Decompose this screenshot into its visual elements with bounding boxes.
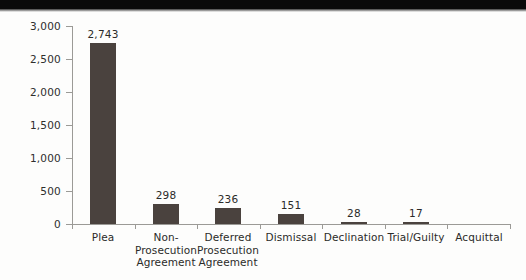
x-axis-tick	[135, 224, 136, 229]
x-axis-category-label: Plea	[92, 231, 115, 244]
bar	[153, 204, 179, 224]
bar-value-label: 28	[347, 207, 361, 219]
bar-value-label: 298	[156, 189, 177, 201]
y-axis-tick-label: 1,500	[30, 119, 61, 131]
bar	[90, 43, 116, 224]
bar-value-label: 17	[409, 207, 423, 219]
x-axis-category-label: Trial/Guilty	[387, 231, 444, 244]
x-axis-category-label: Non- Prosecution Agreement	[135, 231, 197, 269]
x-axis-tick	[447, 224, 448, 229]
bar-value-label: 151	[281, 199, 302, 211]
x-axis-tick	[322, 224, 323, 229]
bars-layer	[0, 12, 526, 224]
bar-value-label: 2,743	[87, 28, 118, 40]
bar	[341, 222, 367, 224]
x-axis-tick	[510, 224, 511, 229]
x-axis-tick	[385, 224, 386, 229]
bar-value-label: 236	[218, 193, 239, 205]
bar-chart-plot: 2,7432982361512817 PleaNon- Prosecution …	[0, 12, 526, 280]
y-axis-tick-label: 500	[40, 185, 61, 197]
chart-screenshot: 2,7432982361512817 PleaNon- Prosecution …	[0, 0, 526, 280]
x-axis-category-label: Declination	[324, 231, 384, 244]
y-axis-tick-label: 3,000	[30, 20, 61, 32]
x-axis-category-label: Deferred Prosecution Agreement	[197, 231, 259, 269]
bar	[278, 214, 304, 224]
scan-artifact-band	[0, 0, 526, 9]
y-axis-tick-label: 2,500	[30, 53, 61, 65]
y-axis-tick-label: 1,000	[30, 152, 61, 164]
x-axis-tick	[260, 224, 261, 229]
x-axis-line	[72, 224, 510, 225]
y-axis-tick-label: 0	[54, 218, 61, 230]
bar	[215, 208, 241, 224]
x-axis-tick	[197, 224, 198, 229]
x-axis-category-label: Acquittal	[455, 231, 503, 244]
bar	[403, 222, 429, 224]
x-axis-category-label: Dismissal	[266, 231, 317, 244]
y-axis-tick-label: 2,000	[30, 86, 61, 98]
x-axis-tick	[72, 224, 73, 229]
